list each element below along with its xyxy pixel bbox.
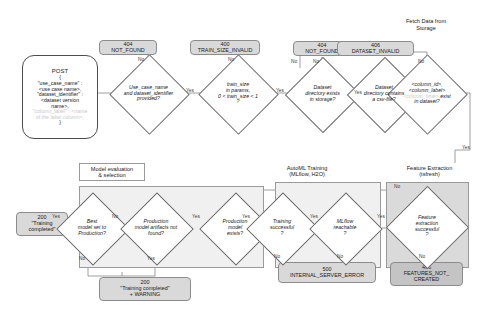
edge-label-no: No bbox=[291, 59, 297, 64]
group-label-feature-extraction: Feature Extraction (tsfresh) bbox=[386, 163, 473, 179]
fetch-data-label: Fetch Data from Storage bbox=[378, 18, 474, 31]
edge-label-yes: Yes bbox=[377, 214, 385, 219]
pill-400-train-size-invalid: 400 TRAIN_SIZE_INVALID bbox=[190, 40, 260, 55]
edge-label-yes: Yes bbox=[186, 88, 194, 93]
edge-label-yes: Yes bbox=[52, 214, 60, 219]
post-request-card: POST { "use_case_name" : <use case name>… bbox=[22, 55, 98, 139]
decision-line-3: ? bbox=[398, 232, 456, 238]
decision-line-2: ? bbox=[255, 231, 309, 237]
flowchart-canvas: Fetch Data from Storage POST { "use_case… bbox=[0, 0, 483, 318]
decision-train-size-valid: train_size in params, 0 < train_size < 1… bbox=[201, 66, 275, 121]
group-label-model-evaluation: Model evaluation & selection bbox=[79, 163, 145, 181]
decision-line-2: ? bbox=[318, 231, 372, 237]
decision-feature-extraction-successful: Feature extraction successful ? bbox=[398, 198, 456, 255]
edge-label-no: No bbox=[112, 214, 118, 219]
decision-tail-italic: exist bbox=[440, 93, 451, 99]
group-label-automl: AutoML Training (MLflow, H2O) bbox=[275, 163, 339, 179]
decision-line-2: found? bbox=[122, 231, 190, 237]
edge-label-no: No bbox=[138, 57, 144, 62]
pill-200-training-completed-warning: 200 "Training completed" + WARNING bbox=[99, 277, 191, 301]
edge-label-no: No bbox=[313, 59, 319, 64]
edge-label-no: No bbox=[79, 256, 85, 261]
edge-label-no: No bbox=[337, 254, 343, 259]
pill-message: NOT_FOUND bbox=[111, 48, 145, 54]
pill-message: "Training completed" bbox=[29, 221, 56, 233]
edge-label-yes: Yes bbox=[276, 88, 284, 93]
pill-500-internal-server-error: 500 INTERNAL_SERVER_ERROR bbox=[278, 262, 376, 283]
decision-production-artifacts-missing: Production model artifacts not found? bbox=[122, 203, 190, 253]
edge-label-no: No bbox=[394, 184, 400, 189]
edge-label-no: No bbox=[418, 59, 424, 64]
decision-line-2: provided? bbox=[112, 96, 185, 102]
decision-dataset-dir-exists: Dataset directory exists in storage? bbox=[288, 68, 357, 120]
pill-406-dataset-invalid: 406 DATASET_INVALID bbox=[337, 41, 414, 56]
pill-message: INTERNAL_SERVER_ERROR bbox=[290, 273, 364, 279]
pill-message: FEATURES_NOT_ CREATED bbox=[404, 271, 450, 283]
edge-label-no: No bbox=[419, 254, 425, 259]
pill-404-not-found-1: 404 NOT_FOUND bbox=[99, 40, 157, 55]
pill-message: DATASET_INVALID bbox=[352, 49, 400, 55]
pill-message: "Training completed" + WARNING bbox=[120, 286, 169, 298]
decision-params-provided: Use_case_name and dataset_identifier pro… bbox=[112, 66, 185, 121]
decision-last-line: in dataset? bbox=[380, 99, 474, 105]
edge-label-yes: Yes bbox=[310, 214, 318, 219]
decision-mlflow-reachable: MLflow reachable ? bbox=[318, 203, 372, 253]
decision-best-model-production: Best model set to Production? bbox=[62, 203, 122, 253]
decision-line-2: Production? bbox=[62, 231, 122, 237]
edge-label-no: No bbox=[274, 254, 280, 259]
edge-label-yes: Yes bbox=[462, 145, 470, 150]
decision-training-successful: Training successful ? bbox=[255, 203, 309, 253]
edge-label-yes: Yes bbox=[192, 214, 200, 219]
edge-label-no: No bbox=[228, 57, 234, 62]
pill-message: NOT_FOUND bbox=[305, 49, 339, 55]
decision-line-2: in storage? bbox=[288, 97, 357, 103]
edge-label-yes: Yes bbox=[147, 256, 155, 261]
decision-line-3: ? bbox=[201, 99, 275, 105]
decision-columns-exist: <column_id>, <column_label> <column_time… bbox=[380, 66, 474, 121]
pill-message: TRAIN_SIZE_INVALID bbox=[198, 48, 253, 54]
post-brace-close: } bbox=[59, 120, 61, 126]
